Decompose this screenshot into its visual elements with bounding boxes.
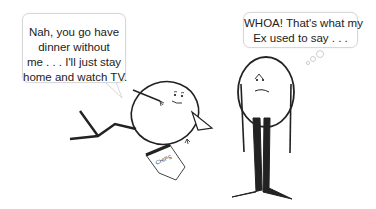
speech-line: Nah, you go have xyxy=(23,25,125,40)
speech-line: me . . . I'll just stay xyxy=(23,55,125,70)
speech-line: home and watch TV. xyxy=(23,70,125,85)
standing-character xyxy=(232,57,294,199)
thought-bubble-dots-icon xyxy=(306,51,323,65)
thought-line: Ex used to say . . . xyxy=(244,31,357,46)
speech-line: dinner without xyxy=(23,40,125,55)
chips-bag-icon: CHIPS xyxy=(146,145,185,180)
speech-bubble: Nah, you go have dinner without me . . .… xyxy=(22,13,126,83)
thought-bubble: WHOA! That's what my Ex used to say . . … xyxy=(243,12,358,48)
thought-line: WHOA! That's what my xyxy=(244,16,357,31)
